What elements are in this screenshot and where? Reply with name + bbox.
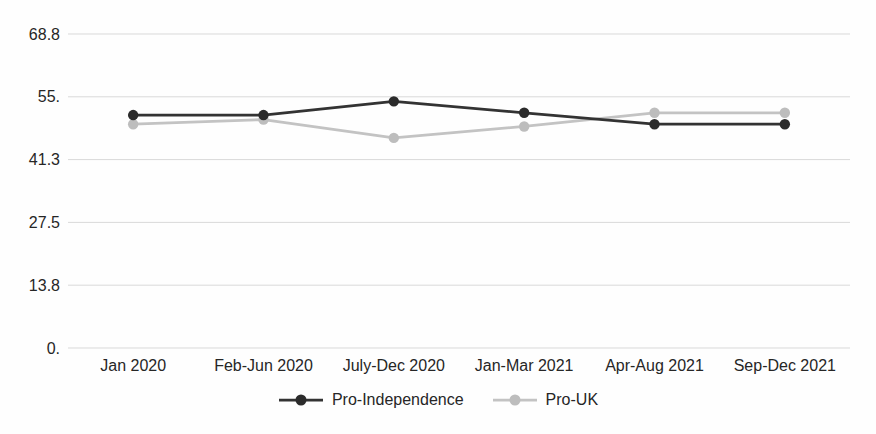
- y-tick-label: 13.8: [29, 277, 60, 294]
- data-point-pro-independence-5: [780, 119, 790, 129]
- legend-line-dot-icon: [492, 393, 538, 407]
- x-tick-label: July-Dec 2020: [343, 357, 445, 374]
- poll-line-chart-figure: 0.13.827.541.355.68.8Jan 2020Feb-Jun 202…: [0, 0, 876, 434]
- x-tick-label: Feb-Jun 2020: [214, 357, 313, 374]
- data-point-pro-independence-3: [519, 108, 529, 118]
- data-point-pro-independence-1: [258, 110, 268, 120]
- data-point-pro-independence-2: [389, 96, 399, 106]
- legend-line-dot-icon: [278, 393, 324, 407]
- x-tick-label: Jan 2020: [100, 357, 166, 374]
- chart-plot-area: 0.13.827.541.355.68.8Jan 2020Feb-Jun 202…: [0, 0, 876, 386]
- legend-label-pro-independence: Pro-Independence: [332, 391, 464, 409]
- legend-item-pro-uk: Pro-UK: [492, 391, 598, 409]
- data-point-pro-uk-3: [519, 121, 529, 131]
- data-point-pro-uk-4: [649, 108, 659, 118]
- data-point-pro-uk-5: [780, 108, 790, 118]
- data-point-pro-independence-0: [128, 110, 138, 120]
- data-point-pro-uk-2: [389, 133, 399, 143]
- y-tick-label: 27.5: [29, 214, 60, 231]
- x-tick-label: Sep-Dec 2021: [734, 357, 836, 374]
- y-tick-label: 55.: [38, 88, 60, 105]
- x-tick-label: Apr-Aug 2021: [605, 357, 704, 374]
- x-tick-label: Jan-Mar 2021: [475, 357, 574, 374]
- y-tick-label: 68.8: [29, 26, 60, 43]
- data-point-pro-independence-4: [649, 119, 659, 129]
- legend-item-pro-independence: Pro-Independence: [278, 391, 464, 409]
- y-tick-label: 0.: [47, 340, 60, 357]
- chart-legend: Pro-Independence Pro-UK: [0, 391, 876, 409]
- y-tick-label: 41.3: [29, 151, 60, 168]
- data-point-pro-uk-0: [128, 119, 138, 129]
- legend-label-pro-uk: Pro-UK: [546, 391, 598, 409]
